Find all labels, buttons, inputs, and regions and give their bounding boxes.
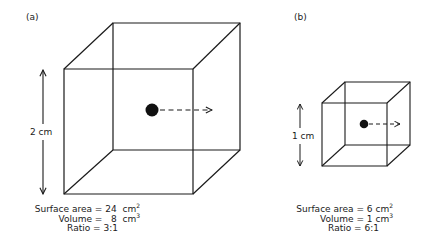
cube-b-stats: Surface area = 6 cm2 Volume = 1 cm3 Rati…: [291, 205, 393, 234]
cube-b-edge: [322, 145, 345, 166]
panel-a-label: (a): [26, 12, 39, 22]
cube-a-dimension-label: 2 cm: [30, 126, 52, 138]
cube-a-front-face: [64, 69, 193, 194]
cube-b-ratio: Ratio = 6:1: [291, 224, 393, 234]
cube-a-edge: [64, 23, 113, 69]
cube-a-ratio: Ratio = 3:1: [28, 224, 140, 234]
cube-a-edge: [64, 150, 113, 194]
cube-b-dimension-label: 1 cm: [292, 130, 314, 142]
cube-b-particle-dot: [360, 120, 369, 129]
cube-b-edge: [322, 82, 345, 103]
cube-a-edge: [193, 23, 240, 69]
cube-a-particle-dot: [146, 104, 159, 117]
cube-b-edge: [387, 82, 410, 103]
cube-b-edge: [387, 145, 410, 166]
panel-b-label: (b): [294, 12, 307, 22]
cube-a-edge: [193, 150, 240, 194]
cube-a-stats: Surface area = 24 cm2 Volume = 8 cm3 Rat…: [28, 205, 140, 234]
